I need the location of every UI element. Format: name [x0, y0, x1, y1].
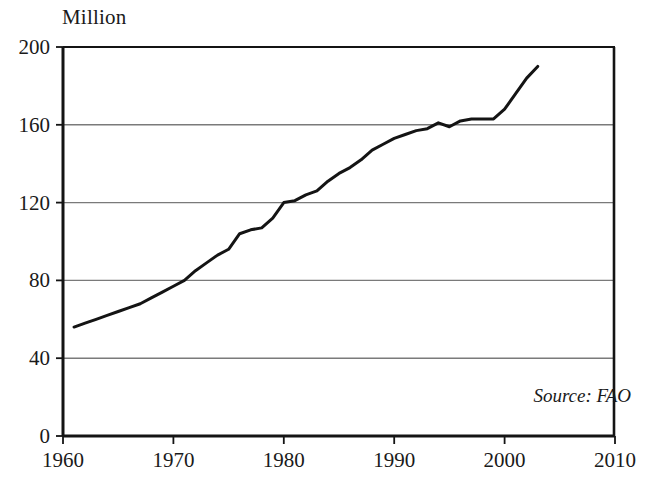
data-series-line [74, 66, 538, 327]
chart-figure: Million 200 160 120 80 40 0 1960 1970 19… [0, 0, 653, 489]
line-chart-canvas [0, 0, 653, 489]
y-tick-label-0: 0 [0, 424, 50, 449]
x-tick-label-1960: 1960 [42, 448, 84, 473]
source-annotation: Source: FAO [533, 385, 631, 407]
y-tick-label-40: 40 [0, 346, 50, 371]
y-axis-unit-label: Million [62, 5, 126, 30]
plot-frame [63, 47, 615, 436]
x-tick-label-2010: 2010 [594, 448, 636, 473]
x-tick-label-1980: 1980 [263, 448, 305, 473]
y-tick-label-120: 120 [0, 190, 50, 215]
y-tick-label-80: 80 [0, 268, 50, 293]
x-tick-label-2000: 2000 [484, 448, 526, 473]
gridlines [63, 125, 615, 358]
x-tick-label-1970: 1970 [152, 448, 194, 473]
y-tick-label-200: 200 [0, 35, 50, 60]
x-tick-label-1990: 1990 [373, 448, 415, 473]
y-tick-label-160: 160 [0, 112, 50, 137]
